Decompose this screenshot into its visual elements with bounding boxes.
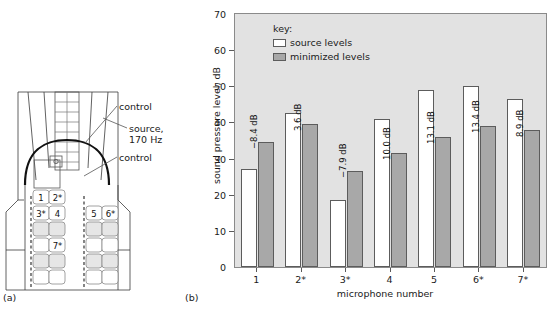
panel-a-caption: (a) — [3, 292, 16, 303]
vehicle-plan-svg: 1 2* 3* 4 5 6* 7* — [0, 0, 200, 311]
bar-reduction-annotation: 13.4 dB — [471, 100, 481, 133]
x-tick-mark — [523, 268, 524, 272]
chart-x-axis-label: microphone number — [220, 288, 550, 299]
legend-item-source: source levels — [273, 36, 370, 49]
bar-minimized-level — [524, 130, 540, 267]
legend-label-source: source levels — [290, 36, 352, 49]
bar-reduction-annotation: −7.9 dB — [338, 144, 348, 179]
x-tick-mark — [345, 268, 346, 272]
bar-reduction-annotation: 3.6 dB — [293, 104, 303, 131]
panel-b-chart: sound pressure level, dB 010203040506070… — [200, 0, 557, 311]
bar-reduction-annotation: −8.4 dB — [249, 115, 259, 150]
bar-minimized-level — [347, 171, 363, 267]
bar-source-level — [330, 200, 346, 267]
diagram-label-control-upper: control — [119, 101, 152, 112]
seat-number-7: 7* — [53, 241, 63, 251]
legend-swatch-source-icon — [273, 39, 286, 47]
bar-minimized-level — [258, 142, 274, 267]
x-tick-mark — [256, 268, 257, 272]
legend-label-minimized: minimized levels — [290, 50, 370, 63]
chart-legend: key: source levels minimized levels — [273, 22, 370, 63]
bar-source-level — [285, 113, 301, 267]
y-tick-label: 0 — [220, 262, 226, 273]
y-tick-label: 50 — [214, 81, 226, 92]
x-tick-label: 5 — [431, 274, 437, 285]
seat-grid — [33, 190, 118, 284]
x-tick-mark — [390, 268, 391, 272]
x-tick-label: 4 — [386, 274, 392, 285]
diagram-label-source-line2: 170 Hz — [129, 134, 164, 145]
seat-number-6: 6* — [106, 209, 116, 219]
bar-minimized-level — [435, 137, 451, 267]
x-tick-mark — [434, 268, 435, 272]
seat-number-1: 1 — [38, 193, 43, 203]
bar-minimized-level — [391, 153, 407, 267]
bar-source-level — [241, 169, 257, 267]
chart-plot-area: −8.4 dB3.6 dB−7.9 dB10.0 dB13.1 dB13.4 d… — [234, 13, 547, 268]
y-tick-label: 70 — [214, 9, 226, 20]
bar-reduction-annotation: 10.0 dB — [382, 127, 392, 160]
legend-item-minimized: minimized levels — [273, 50, 370, 63]
x-tick-mark — [301, 268, 302, 272]
seat-number-2: 2* — [53, 193, 63, 203]
y-tick-label: 10 — [214, 225, 226, 236]
y-tick-label: 30 — [214, 153, 226, 164]
seat-number-4: 4 — [55, 209, 60, 219]
seat-number-5: 5 — [91, 209, 96, 219]
diagram-label-source-line1: source, — [129, 123, 164, 134]
y-tick-label: 20 — [214, 189, 226, 200]
legend-swatch-minimized-icon — [273, 53, 286, 61]
seat-number-3: 3* — [36, 209, 46, 219]
y-tick-label: 40 — [214, 117, 226, 128]
bar-minimized-level — [302, 124, 318, 267]
panel-a-diagram: 1 2* 3* 4 5 6* 7* control source, 170 Hz… — [0, 0, 200, 311]
diagram-label-source: source, 170 Hz — [129, 123, 164, 145]
y-tick-label: 60 — [214, 45, 226, 56]
x-tick-mark — [478, 268, 479, 272]
x-tick-label: 6* — [473, 274, 484, 285]
bar-reduction-annotation: 8.9 dB — [515, 109, 525, 136]
chart-y-axis-ticks: 010203040506070 — [200, 13, 234, 268]
legend-title: key: — [273, 22, 370, 35]
x-tick-label: 3* — [340, 274, 351, 285]
bar-reduction-annotation: 13.1 dB — [426, 111, 436, 144]
bar-minimized-level — [480, 126, 496, 267]
x-tick-label: 1 — [253, 274, 259, 285]
diagram-label-control-lower: control — [119, 152, 152, 163]
x-tick-label: 2* — [295, 274, 306, 285]
x-tick-label: 7* — [517, 274, 528, 285]
panel-b-caption: (b) — [185, 292, 198, 303]
